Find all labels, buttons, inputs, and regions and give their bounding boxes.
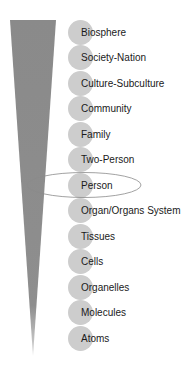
highlight-ellipse — [0, 0, 181, 367]
